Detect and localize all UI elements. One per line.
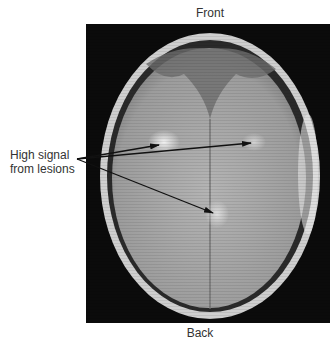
back-label: Back [170, 326, 230, 340]
arrow-lesion-2 [77, 143, 251, 159]
annotation-line-1: High signal [10, 148, 75, 162]
arrow-lesion-3 [77, 159, 213, 213]
lesion-annotation: High signal from lesions [10, 148, 75, 176]
annotation-line-2: from lesions [10, 162, 75, 176]
